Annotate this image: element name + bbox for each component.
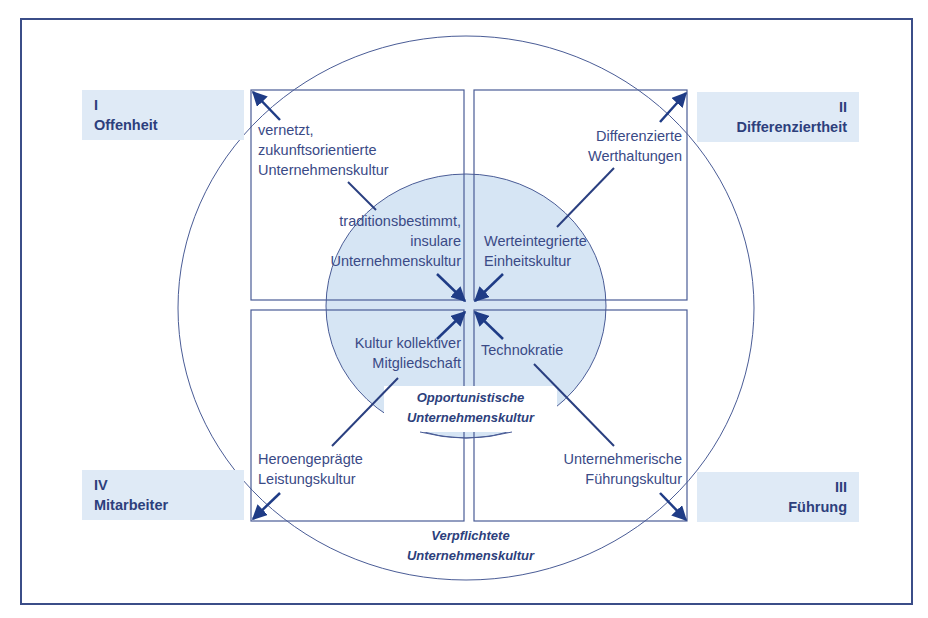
corner-label-iii: III Führung: [697, 472, 859, 522]
corner-label-ii: II Differenziertheit: [697, 92, 859, 142]
inner-circle-label: Opportunistische Unternehmenskultur: [384, 388, 557, 428]
corner-numeral: II: [709, 97, 847, 117]
corner-title: Offenheit: [94, 115, 232, 135]
corner-label-i: I Offenheit: [82, 90, 244, 140]
outer-culture-iii: Unternehmerische Führungskultur: [564, 449, 682, 489]
inner-culture-ii: Werteintegrierte Einheitskultur: [484, 231, 587, 271]
corner-numeral: IV: [94, 475, 232, 495]
arrow-to-corner-ii: [660, 93, 686, 122]
corner-numeral: I: [94, 95, 232, 115]
inner-culture-iii: Technokratie: [481, 340, 563, 360]
corner-title: Mitarbeiter: [94, 495, 232, 515]
culture-typology-diagram: I Offenheit II Differenziertheit III Füh…: [0, 0, 928, 618]
corner-label-iv: IV Mitarbeiter: [82, 470, 244, 520]
outer-circle-label: Verpflichtete Unternehmenskultur: [384, 526, 557, 566]
corner-title: Führung: [709, 497, 847, 517]
inner-culture-i: traditionsbestimmt, insulare Unternehmen…: [330, 211, 461, 271]
inner-culture-iv: Kultur kollektiver Mitgliedschaft: [355, 333, 461, 373]
corner-title: Differenziertheit: [709, 117, 847, 137]
corner-numeral: III: [709, 477, 847, 497]
connector-ii: [557, 168, 614, 227]
outer-culture-i: vernetzt, zukunftsorientierte Unternehme…: [258, 120, 389, 180]
connector-i: [348, 182, 376, 210]
outer-culture-ii: Differenzierte Werthaltungen: [588, 126, 682, 166]
arrow-to-corner-iv: [253, 493, 280, 519]
arrow-to-corner-i: [253, 92, 280, 120]
outer-culture-iv: Heroengeprägte Leistungskultur: [258, 449, 363, 489]
